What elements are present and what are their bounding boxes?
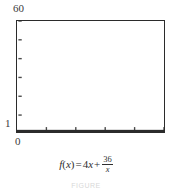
plot-canvas: [17, 21, 164, 132]
y-axis-tick: [18, 77, 21, 78]
x-axis-baseline: [17, 130, 164, 132]
y-axis-tick: [18, 96, 21, 97]
y-axis-min-label: 1: [5, 118, 11, 129]
equation-equals: =: [74, 158, 82, 170]
y-axis-max-label: 60: [13, 3, 24, 14]
y-axis-tick: [18, 39, 21, 40]
y-axis-ticks: [18, 21, 21, 116]
equation-caption: f(x)=4x+36x: [0, 155, 172, 173]
x-axis-min-label: 0: [15, 136, 21, 147]
equation-fraction-numerator: 36: [102, 155, 113, 164]
y-axis-tick: [18, 58, 21, 59]
y-axis-tick: [18, 21, 21, 22]
figure-container: 60 1 0 f(x)=4x+36x FIGURE: [0, 0, 172, 190]
figure-caption-strip: FIGURE: [0, 182, 172, 190]
equation-fraction-denominator: x: [102, 164, 113, 174]
y-axis-tick: [18, 114, 21, 115]
equation-plus: +: [93, 158, 101, 170]
plot-frame: [16, 20, 165, 133]
equation-fraction: 36x: [102, 155, 113, 173]
